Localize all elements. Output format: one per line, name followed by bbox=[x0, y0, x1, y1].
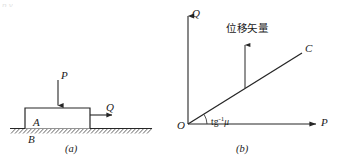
panel-b-chart: Q P O C tg-1μ 位移矢量 (b) bbox=[170, 0, 340, 161]
force-q-label: Q bbox=[106, 102, 114, 113]
displacement-vector-annotation: 位移矢量 bbox=[226, 20, 268, 35]
slope-angle-label: tg-1μ bbox=[211, 115, 229, 127]
x-axis-label: P bbox=[321, 117, 328, 128]
origin-label: O bbox=[177, 120, 185, 131]
physics-figure: p v bbox=[0, 0, 340, 161]
y-axis-label: Q bbox=[192, 8, 200, 19]
panel-b-caption: (b) bbox=[236, 143, 248, 154]
panel-a-drawing bbox=[0, 0, 170, 161]
panel-a-caption: (a) bbox=[65, 143, 77, 154]
point-b-label: B bbox=[28, 134, 35, 145]
angle-arc bbox=[204, 115, 207, 124]
force-p-label: P bbox=[61, 70, 68, 81]
line-end-label-c: C bbox=[305, 43, 312, 54]
panel-a-block-diagram: P Q A B (a) bbox=[0, 0, 170, 161]
point-a-label: A bbox=[33, 117, 40, 128]
angle-symbol: μ bbox=[224, 117, 229, 127]
